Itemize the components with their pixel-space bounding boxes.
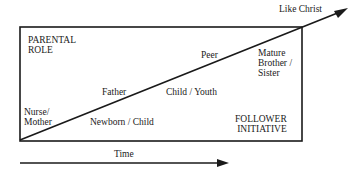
parental-role-line2: ROLE [28, 45, 76, 55]
newborn-child-label: Newborn / Child [90, 117, 154, 127]
time-label: Time [114, 149, 134, 159]
mature-line1: Mature [258, 48, 292, 58]
child-youth-label: Child / Youth [166, 87, 217, 97]
nurse-mother-label: Nurse/ Mother [24, 107, 52, 127]
parental-role-line1: PARENTAL [28, 35, 76, 45]
follower-line2: INITIATIVE [235, 124, 287, 134]
mature-sibling-label: Mature Brother / Sister [258, 48, 292, 78]
nurse-line1: Nurse/ [24, 107, 52, 117]
like-christ-label: Like Christ [279, 4, 322, 14]
follower-initiative-label: FOLLOWER INITIATIVE [235, 114, 287, 134]
follower-line1: FOLLOWER [235, 114, 287, 124]
parental-role-label: PARENTAL ROLE [28, 35, 76, 55]
father-label: Father [102, 87, 126, 97]
progression-arrowhead-icon [334, 8, 348, 18]
mature-line2: Brother / [258, 58, 292, 68]
time-arrowhead-icon [217, 159, 229, 167]
nurse-line2: Mother [24, 117, 52, 127]
peer-label: Peer [201, 50, 218, 60]
mature-line3: Sister [258, 68, 292, 78]
